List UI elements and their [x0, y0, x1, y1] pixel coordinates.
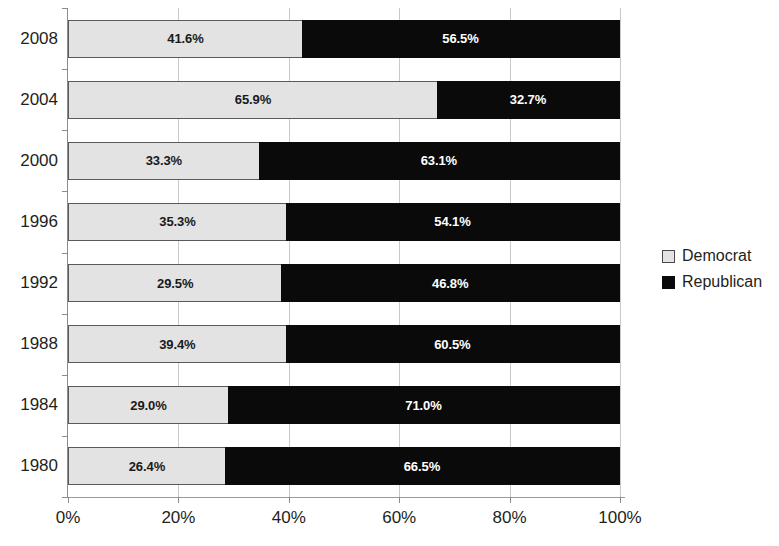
y-tick — [62, 375, 68, 376]
bar-value-label: 29.5% — [157, 276, 193, 291]
x-tick-20pct — [178, 497, 179, 503]
bar-segment-republican: 46.8% — [281, 264, 620, 302]
x-tick-0pct — [68, 497, 69, 503]
bar-value-label: 60.5% — [434, 337, 470, 352]
bar-segment-democrat: 65.9% — [68, 81, 437, 119]
bar-value-label: 63.1% — [421, 153, 457, 168]
bar-row: 35.3%54.1% — [68, 203, 620, 241]
bar-row: 33.3%63.1% — [68, 142, 620, 180]
bar-segment-democrat: 33.3% — [68, 142, 259, 180]
bar-value-label: 39.4% — [159, 337, 195, 352]
y-tick — [62, 314, 68, 315]
legend-item-democrat: Democrat — [662, 243, 762, 269]
bar-segment-democrat: 29.5% — [68, 264, 281, 302]
legend-item-republican: Republican — [662, 269, 762, 295]
y-axis-category-label: 2004 — [0, 91, 58, 108]
bar-segment-republican: 60.5% — [286, 325, 620, 363]
bar-value-label: 35.3% — [159, 214, 195, 229]
x-tick-label: 40% — [244, 509, 334, 526]
y-axis-category-label: 1992 — [0, 274, 58, 291]
legend-swatch-icon — [662, 250, 675, 263]
bar-value-label: 32.7% — [510, 92, 546, 107]
y-axis-category-label: 2008 — [0, 30, 58, 47]
x-axis-line — [62, 497, 625, 498]
bar-segment-republican: 32.7% — [437, 81, 620, 119]
bar-segment-democrat: 41.6% — [68, 20, 302, 58]
y-axis-category-label: 1984 — [0, 396, 58, 413]
y-tick — [62, 436, 68, 437]
x-tick-label: 20% — [133, 509, 223, 526]
bar-value-label: 29.0% — [130, 398, 166, 413]
bar-value-label: 46.8% — [432, 276, 468, 291]
x-tick-label: 80% — [465, 509, 555, 526]
stacked-bar-chart: 41.6%56.5%65.9%32.7%33.3%63.1%35.3%54.1%… — [0, 0, 779, 546]
y-tick — [62, 130, 68, 131]
bar-segment-republican: 71.0% — [228, 386, 620, 424]
x-tick-80pct — [510, 497, 511, 503]
y-tick — [62, 191, 68, 192]
y-axis-category-label: 1980 — [0, 457, 58, 474]
bar-segment-republican: 56.5% — [302, 20, 620, 58]
bar-segment-republican: 66.5% — [225, 447, 620, 485]
bar-segment-republican: 63.1% — [259, 142, 620, 180]
bar-row: 39.4%60.5% — [68, 325, 620, 363]
legend-label: Democrat — [682, 248, 751, 264]
y-axis-category-label: 1996 — [0, 213, 58, 230]
bar-value-label: 26.4% — [129, 459, 165, 474]
y-tick — [62, 8, 68, 9]
bar-row: 26.4%66.5% — [68, 447, 620, 485]
bar-row: 65.9%32.7% — [68, 81, 620, 119]
x-tick-label: 60% — [354, 509, 444, 526]
gridline-100pct — [620, 8, 621, 497]
x-tick-label: 100% — [575, 509, 665, 526]
x-tick-60pct — [399, 497, 400, 503]
bar-value-label: 71.0% — [405, 398, 441, 413]
bar-row: 29.5%46.8% — [68, 264, 620, 302]
y-axis-category-label: 2000 — [0, 152, 58, 169]
bar-segment-democrat: 39.4% — [68, 325, 286, 363]
bar-row: 41.6%56.5% — [68, 20, 620, 58]
y-axis-category-label: 1988 — [0, 335, 58, 352]
chart-legend: DemocratRepublican — [662, 243, 762, 295]
bar-value-label: 54.1% — [434, 214, 470, 229]
bar-value-label: 41.6% — [167, 31, 203, 46]
bar-value-label: 65.9% — [235, 92, 271, 107]
bar-segment-democrat: 26.4% — [68, 447, 225, 485]
legend-label: Republican — [682, 274, 762, 290]
bar-segment-democrat: 29.0% — [68, 386, 228, 424]
bar-segment-democrat: 35.3% — [68, 203, 286, 241]
x-tick-100pct — [620, 497, 621, 503]
y-tick — [62, 253, 68, 254]
bar-value-label: 66.5% — [404, 459, 440, 474]
y-tick — [62, 69, 68, 70]
bar-value-label: 33.3% — [146, 153, 182, 168]
x-tick-40pct — [289, 497, 290, 503]
bar-value-label: 56.5% — [442, 31, 478, 46]
bar-row: 29.0%71.0% — [68, 386, 620, 424]
bar-segment-republican: 54.1% — [286, 203, 620, 241]
legend-swatch-icon — [662, 276, 675, 289]
y-tick — [62, 497, 68, 498]
x-tick-label: 0% — [23, 509, 113, 526]
